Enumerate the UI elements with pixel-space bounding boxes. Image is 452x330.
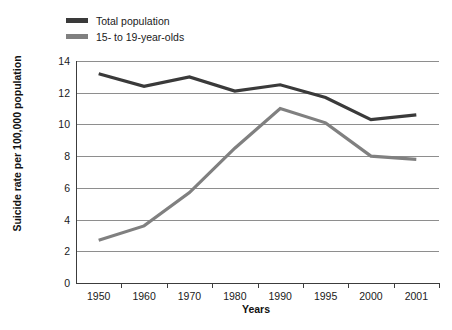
x-tick-label: 2001 (405, 290, 428, 302)
x-tick-mark (167, 283, 168, 288)
x-tick-mark (439, 283, 440, 288)
x-axis-title: Years (62, 303, 450, 315)
y-tick-label: 4 (44, 214, 70, 226)
x-tick-mark (258, 283, 259, 288)
y-tick-label: 14 (44, 55, 70, 67)
y-tick-label: 12 (44, 87, 70, 99)
series-line (99, 74, 417, 120)
x-tick-label: 1980 (223, 290, 246, 302)
x-tick-label: 1970 (178, 290, 201, 302)
x-tick-mark (121, 283, 122, 288)
x-tick-label: 1950 (87, 290, 110, 302)
y-tick-label: 0 (44, 277, 70, 289)
x-tick-label: 1990 (269, 290, 292, 302)
x-tick-label: 1995 (314, 290, 337, 302)
x-tick-mark (303, 283, 304, 288)
chart-figure: Total population 15- to 19-year-olds Sui… (0, 0, 452, 330)
x-tick-label: 1960 (132, 290, 155, 302)
y-tick-label: 2 (44, 245, 70, 257)
x-tick-mark (212, 283, 213, 288)
y-tick-label: 6 (44, 182, 70, 194)
y-tick-label: 10 (44, 118, 70, 130)
x-tick-label: 2000 (359, 290, 382, 302)
series-line (99, 109, 417, 241)
x-tick-mark (394, 283, 395, 288)
x-tick-mark (348, 283, 349, 288)
y-tick-label: 8 (44, 150, 70, 162)
